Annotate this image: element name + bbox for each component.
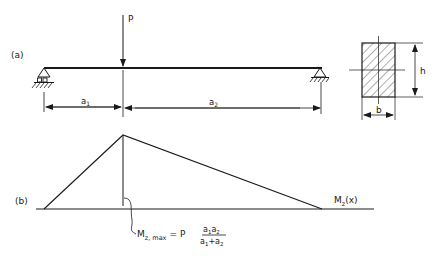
section-height-label: h <box>420 66 426 76</box>
section-width-label: b <box>376 105 382 115</box>
panel-a-label: (a) <box>11 50 24 60</box>
bending-moment-curve <box>44 135 322 209</box>
right-pin-support-icon <box>310 68 329 82</box>
load-label: P <box>128 14 134 24</box>
svg-text:a1a2: a1a2 <box>203 225 220 235</box>
moment-curve-label: Mz(x) <box>334 195 358 208</box>
rectangular-cross-section <box>349 36 423 120</box>
span-a1-label: a1 <box>81 96 90 107</box>
panel-b-label: (b) <box>15 196 28 206</box>
beam-diagram: (a) P a1 a2 <box>0 0 441 256</box>
svg-text:a1+a2: a1+a2 <box>200 237 224 247</box>
max-moment-formula: Mz, max=P a1a2 a1+a2 <box>137 225 226 247</box>
svg-text:Mz, max=P: Mz, max=P <box>137 229 186 242</box>
formula-leader-line <box>124 198 136 234</box>
left-roller-support-icon <box>32 68 54 88</box>
span-a2-label: a2 <box>209 97 218 108</box>
